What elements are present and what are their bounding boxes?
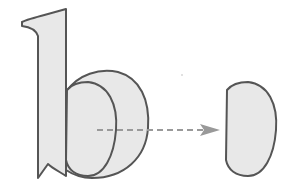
letter-b-glyph [22, 9, 148, 178]
counter-diagram [0, 0, 296, 191]
speck [181, 74, 183, 76]
extracted-counter-shape [226, 82, 276, 176]
letter-b-stem [22, 9, 66, 178]
diagram-canvas [0, 0, 296, 191]
